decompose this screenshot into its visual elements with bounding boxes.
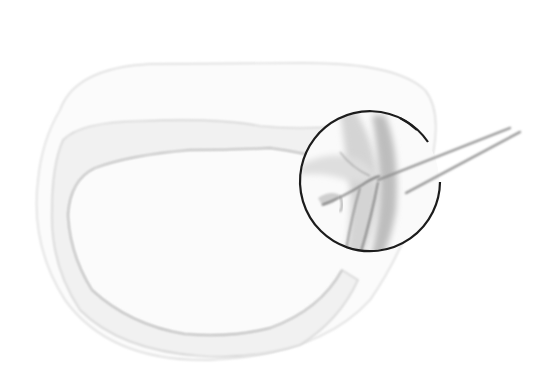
illustration-canvas [0,0,560,380]
illustration-svg [0,0,560,380]
